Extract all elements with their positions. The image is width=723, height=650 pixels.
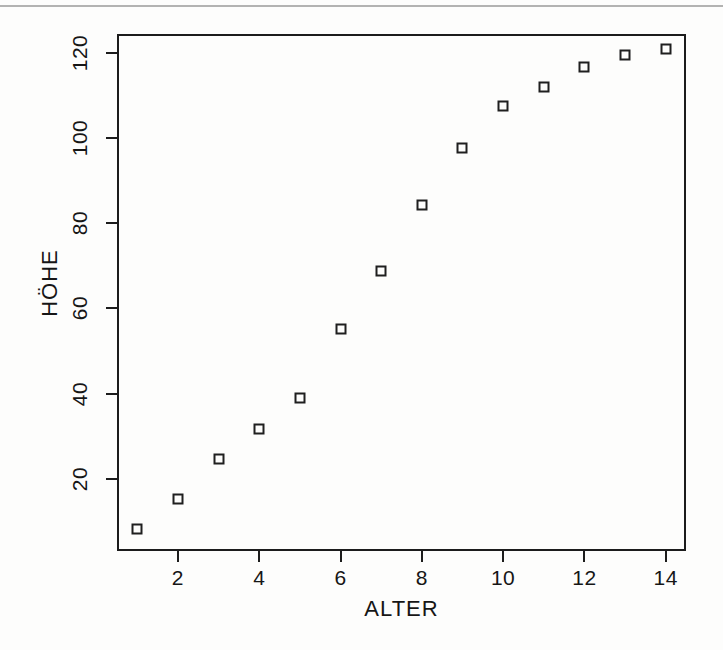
- y-tick-mark: [106, 307, 117, 309]
- scatter-plot-figure: 20406080100120 2468101214 HÖHE ALTER: [0, 0, 723, 650]
- y-tick-mark: [106, 52, 117, 54]
- x-tick-mark: [421, 551, 423, 562]
- y-tick-label: 40: [68, 372, 92, 416]
- x-tick-label: 6: [319, 566, 363, 590]
- data-point: [335, 323, 346, 334]
- y-axis-title: HÖHE: [37, 213, 63, 353]
- data-point: [294, 393, 305, 404]
- x-tick-mark: [177, 551, 179, 562]
- x-tick-label: 12: [562, 566, 606, 590]
- x-tick-mark: [665, 551, 667, 562]
- x-tick-label: 10: [481, 566, 525, 590]
- y-tick-mark: [106, 137, 117, 139]
- x-tick-label: 2: [156, 566, 200, 590]
- data-point: [132, 523, 143, 534]
- y-tick-mark: [106, 393, 117, 395]
- data-point: [660, 43, 671, 54]
- data-point: [620, 49, 631, 60]
- y-tick-label: 80: [68, 201, 92, 245]
- y-tick-label: 100: [68, 116, 92, 160]
- data-point: [172, 493, 183, 504]
- y-tick-mark: [106, 222, 117, 224]
- x-tick-label: 4: [237, 566, 281, 590]
- y-tick-mark: [106, 478, 117, 480]
- data-point: [376, 266, 387, 277]
- y-tick-label: 20: [68, 457, 92, 501]
- plot-area-frame: [117, 34, 686, 551]
- x-tick-mark: [502, 551, 504, 562]
- data-point: [457, 142, 468, 153]
- data-point: [416, 199, 427, 210]
- x-axis-title: ALTER: [117, 596, 686, 622]
- y-tick-label: 60: [68, 286, 92, 330]
- x-tick-label: 8: [400, 566, 444, 590]
- data-point: [579, 61, 590, 72]
- data-point: [498, 101, 509, 112]
- data-point: [254, 424, 265, 435]
- x-tick-mark: [258, 551, 260, 562]
- x-tick-label: 14: [644, 566, 688, 590]
- y-tick-label: 120: [68, 31, 92, 75]
- data-point: [538, 82, 549, 93]
- data-point: [213, 453, 224, 464]
- x-tick-mark: [340, 551, 342, 562]
- x-tick-mark: [583, 551, 585, 562]
